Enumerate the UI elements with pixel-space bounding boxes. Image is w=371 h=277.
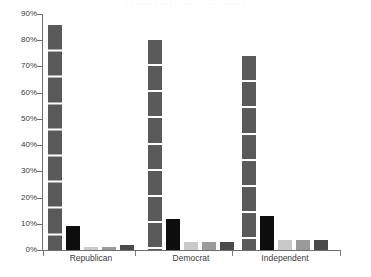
y-axis-tick-label: 30% [3,167,37,175]
bar-column: 4 [278,14,292,250]
x-axis-group-separator-tick [232,251,233,256]
bar-column: 12 [166,14,180,250]
y-axis-tick [37,119,42,120]
y-axis-labels: 0%10%20%30%40%50%60%70%80%90% [0,0,37,277]
bar[interactable]: 2 [120,245,134,250]
bar[interactable]: 3 [202,242,216,250]
y-axis-tick-label: 20% [3,194,37,202]
bar-gridline-overlay [148,40,162,250]
y-axis-tick [37,93,42,94]
grouped-bar-chart: 0%10%20%30%40%50%60%70%80%90% 869112Repu… [0,0,371,277]
bar[interactable]: 9 [66,226,80,250]
bar[interactable]: 3 [220,242,234,250]
bar-gridline-overlay [242,56,256,250]
bar-column: 1 [84,14,98,250]
bar[interactable]: 74 [242,56,256,250]
y-axis-tick-label: 50% [3,115,37,123]
bar-column: 2 [120,14,134,250]
bar-column: 4 [314,14,328,250]
y-axis-tick-label: 90% [3,10,37,18]
bar-column: 13 [260,14,274,250]
bar[interactable]: 12 [166,219,180,250]
bar[interactable]: 1 [84,247,98,250]
y-axis-tick-label: 10% [3,220,37,228]
bar-group-bars: 8012333 [148,14,234,250]
x-axis-group-separator-tick [43,251,44,256]
bar-column: 3 [202,14,216,250]
y-axis-tick [37,14,42,15]
bar-column: 3 [184,14,198,250]
y-axis-tick-label: 60% [3,89,37,97]
x-axis-category-label: Democrat [148,253,234,264]
bar-group-bars: 7413444 [242,14,328,250]
y-axis-tick [37,40,42,41]
y-axis-tick-label: 0% [3,246,37,254]
bar[interactable]: 4 [296,240,310,250]
bar-gridline-overlay [48,25,62,251]
x-axis-category-label: Republican [48,253,134,264]
y-axis-tick [37,171,42,172]
bar-column: 80 [148,14,162,250]
y-axis-tick-label: 40% [3,141,37,149]
bar[interactable]: 4 [278,240,292,250]
x-axis-line [42,250,341,251]
x-axis-group-separator-tick [135,251,136,256]
bar-column: 9 [66,14,80,250]
bar-column: 4 [296,14,310,250]
y-axis-tick-label: 80% [3,36,37,44]
bar[interactable]: 4 [314,240,328,250]
bar[interactable]: 80 [148,40,162,250]
bar[interactable]: 13 [260,216,274,250]
x-axis-category-label: Independent [242,253,328,264]
y-axis-tick [37,66,42,67]
bar-group-bars: 869112 [48,14,134,250]
bar[interactable]: 3 [184,242,198,250]
y-axis-tick [37,198,42,199]
y-axis-tick-label: 70% [3,62,37,70]
bar[interactable]: 1 [102,247,116,250]
bar[interactable]: 86 [48,25,62,251]
bar-column: 1 [102,14,116,250]
y-axis-tick [37,145,42,146]
bar-column: 74 [242,14,256,250]
bar-column: 3 [220,14,234,250]
x-axis-group-separator-tick [340,251,341,256]
bar-column: 86 [48,14,62,250]
y-axis-tick [37,224,42,225]
y-axis-tick [37,250,42,251]
